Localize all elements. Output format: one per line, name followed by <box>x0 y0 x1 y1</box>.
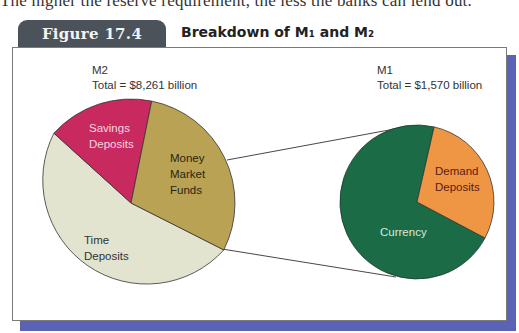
m1-total: Total = $1,570 billion <box>377 77 482 93</box>
m2-title: M2 <box>92 62 108 78</box>
m2-total: Total = $8,261 billion <box>92 77 197 93</box>
label-money-market-funds: Money Market Funds <box>170 150 205 198</box>
m1-title: M1 <box>377 62 393 78</box>
m2-pie <box>43 99 235 284</box>
label-currency: Currency <box>380 224 427 240</box>
m1-pie <box>340 125 494 279</box>
label-time-deposits: Time Deposits <box>84 232 129 264</box>
label-demand-deposits: Demand Deposits <box>435 163 480 195</box>
label-savings-deposits: Savings Deposits <box>89 120 134 152</box>
